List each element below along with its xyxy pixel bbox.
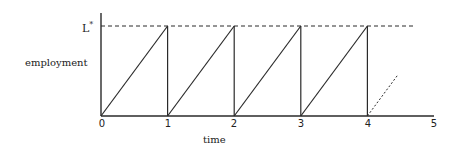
lstar-label: L* (82, 20, 93, 35)
x-tick-0: 0 (99, 118, 105, 129)
series-segment (101, 26, 168, 116)
lstar-sup: * (89, 20, 93, 29)
x-tick-2: 2 (231, 118, 237, 129)
series-segment (168, 26, 235, 116)
x-axis-label: time (203, 134, 226, 145)
series-segment (367, 76, 397, 117)
chart-canvas (0, 0, 459, 156)
x-tick-3: 3 (298, 118, 304, 129)
series-segment (234, 26, 301, 116)
series-segment (301, 26, 368, 116)
x-tick-5: 5 (431, 118, 437, 129)
x-tick-1: 1 (165, 118, 171, 129)
x-tick-4: 4 (365, 118, 371, 129)
y-axis-label: employment (25, 57, 88, 68)
